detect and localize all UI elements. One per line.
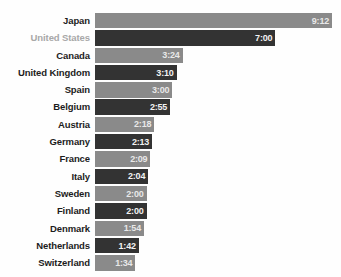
bar-value-label: 7:00	[255, 33, 272, 43]
bar-container: 2:18	[95, 117, 154, 132]
bar-value-label: 2:00	[126, 206, 143, 216]
bar-chart: Japan9:12United States7:00Canada3:24Unit…	[0, 0, 341, 277]
bar-row: Austria2:18	[0, 116, 341, 133]
bar: 2:00	[95, 203, 147, 218]
bar-value-label: 1:42	[119, 241, 136, 251]
bar-row: United States7:00	[0, 29, 341, 46]
category-label: Japan	[0, 12, 90, 29]
bar: 2:55	[95, 99, 170, 114]
category-label: Germany	[0, 133, 90, 150]
bar-row: Denmark1:54	[0, 220, 341, 237]
bar-row: United Kingdom3:10	[0, 64, 341, 81]
bar: 2:04	[95, 169, 148, 184]
bar-row: Belgium2:55	[0, 98, 341, 115]
bar-row: Spain3:00	[0, 81, 341, 98]
category-label: United Kingdom	[0, 64, 90, 81]
category-label: Sweden	[0, 185, 90, 202]
bar: 1:54	[95, 221, 144, 236]
bar-container: 1:34	[95, 255, 135, 270]
bar-container: 3:24	[95, 48, 183, 63]
category-label: Austria	[0, 116, 90, 133]
bar-value-label: 3:10	[156, 68, 173, 78]
bar-row: Netherlands1:42	[0, 237, 341, 254]
bar: 2:13	[95, 134, 152, 149]
bar-row: France2:09	[0, 150, 341, 167]
category-label: Spain	[0, 81, 90, 98]
bar-container: 2:00	[95, 186, 147, 201]
category-label: Belgium	[0, 98, 90, 115]
bar: 9:12	[95, 13, 332, 28]
bar-value-label: 1:34	[115, 258, 132, 268]
bar: 2:09	[95, 151, 150, 166]
bar-container: 3:10	[95, 65, 177, 80]
bar-value-label: 3:00	[152, 85, 169, 95]
bar-row: Finland2:00	[0, 202, 341, 219]
category-label: Italy	[0, 168, 90, 185]
category-label: United States	[0, 29, 90, 46]
bar: 3:00	[95, 82, 172, 97]
category-label: Denmark	[0, 220, 90, 237]
bar-value-label: 2:13	[132, 137, 149, 147]
bar-value-label: 2:00	[126, 189, 143, 199]
clipped-title-remnant	[28, 0, 328, 5]
bar-container: 2:00	[95, 203, 147, 218]
bar-row: Japan9:12	[0, 12, 341, 29]
bar-value-label: 1:54	[124, 223, 141, 233]
bar: 3:10	[95, 65, 177, 80]
bar-row: Sweden2:00	[0, 185, 341, 202]
bar-row: Italy2:04	[0, 168, 341, 185]
bar-value-label: 9:12	[312, 16, 329, 26]
category-label: Finland	[0, 202, 90, 219]
bar-row: Canada3:24	[0, 47, 341, 64]
plot-area: Japan9:12United States7:00Canada3:24Unit…	[0, 12, 341, 274]
bar-value-label: 3:24	[162, 50, 179, 60]
bar-container: 7:00	[95, 30, 275, 45]
bar-container: 2:13	[95, 134, 152, 149]
bar-value-label: 2:04	[128, 171, 145, 181]
bar: 2:18	[95, 117, 154, 132]
bar: 7:00	[95, 30, 275, 45]
bar-value-label: 2:18	[134, 119, 151, 129]
bar-value-label: 2:55	[150, 102, 167, 112]
category-label: France	[0, 150, 90, 167]
bar-container: 3:00	[95, 82, 172, 97]
bar-row: Germany2:13	[0, 133, 341, 150]
bar-container: 1:42	[95, 238, 139, 253]
bar-container: 2:55	[95, 99, 170, 114]
bar-value-label: 2:09	[130, 154, 147, 164]
bar-row: Switzerland1:34	[0, 254, 341, 271]
bar: 2:00	[95, 186, 147, 201]
bar-container: 2:09	[95, 151, 150, 166]
bar-container: 1:54	[95, 221, 144, 236]
category-label: Switzerland	[0, 254, 90, 271]
bar-container: 9:12	[95, 13, 332, 28]
bar: 1:34	[95, 255, 135, 270]
category-label: Netherlands	[0, 237, 90, 254]
bar: 3:24	[95, 48, 183, 63]
bar-container: 2:04	[95, 169, 148, 184]
bar: 1:42	[95, 238, 139, 253]
category-label: Canada	[0, 47, 90, 64]
